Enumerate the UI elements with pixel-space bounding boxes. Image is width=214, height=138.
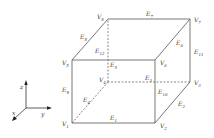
vertex-label-v3: V3 bbox=[194, 79, 201, 88]
edge-label-e5: E5 bbox=[109, 61, 117, 70]
edge-label-e2: E2 bbox=[177, 100, 185, 109]
z-arrow-icon bbox=[24, 80, 27, 85]
z-axis-label: z bbox=[19, 83, 24, 90]
x-axis-label: x bbox=[12, 109, 16, 116]
vertex-label-v5: V5 bbox=[62, 59, 69, 68]
vertex-label-v8: V8 bbox=[97, 13, 104, 22]
edge-label-e9: E9 bbox=[61, 86, 69, 95]
edge-e4 bbox=[72, 82, 108, 123]
axis-indicator: z y x bbox=[12, 80, 52, 121]
vertex-label-v7: V7 bbox=[194, 16, 201, 25]
edge-label-e6: E6 bbox=[175, 39, 183, 48]
edge-label-e10: E10 bbox=[157, 88, 168, 97]
edge-label-e12: E12 bbox=[94, 47, 105, 56]
vertex-label-v4: V4 bbox=[99, 76, 106, 85]
vertex-label-v6: V6 bbox=[160, 59, 167, 68]
cube-edges bbox=[72, 19, 190, 123]
edge-label-e7: E7 bbox=[145, 10, 153, 19]
y-arrow-icon bbox=[47, 106, 52, 109]
cube-diagram: V1V2V3V4V5V6V7V8 E1E2E3E4E5E6E7E8E9E10E1… bbox=[0, 0, 214, 138]
edge-label-e3: E3 bbox=[144, 74, 152, 83]
edge-label-e8: E8 bbox=[79, 33, 87, 42]
edge-labels: E1E2E3E4E5E6E7E8E9E10E11E12 bbox=[61, 10, 203, 123]
y-axis-label: y bbox=[40, 110, 45, 118]
vertex-label-v2: V2 bbox=[160, 122, 167, 131]
vertex-label-v1: V1 bbox=[62, 120, 69, 129]
edge-label-e4: E4 bbox=[82, 96, 90, 105]
edge-label-e1: E1 bbox=[109, 114, 117, 123]
edge-label-e11: E11 bbox=[193, 48, 203, 57]
edge-e6 bbox=[155, 19, 190, 60]
x-axis bbox=[14, 108, 26, 119]
